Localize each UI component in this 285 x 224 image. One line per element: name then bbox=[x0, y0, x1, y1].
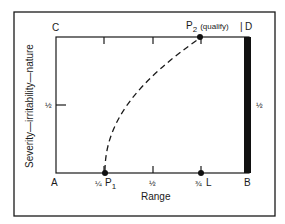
point-p1 bbox=[102, 170, 108, 176]
p2-label: P2(qualify) bbox=[186, 20, 229, 34]
movement-diagram: C A B | D P2(qualify) ¼ P1 ½ ¾ L ½ ½ Ran… bbox=[0, 0, 285, 224]
x-tick-quarter: ¼ bbox=[95, 179, 102, 188]
point-l bbox=[198, 170, 204, 176]
corner-b: B bbox=[244, 177, 251, 188]
x-tick-half: ½ bbox=[149, 179, 156, 188]
y-tick-half-right: ½ bbox=[256, 101, 263, 110]
x-axis-label: Range bbox=[141, 191, 171, 202]
corner-a: A bbox=[51, 177, 58, 188]
x-tick-three-quarter: ¾ bbox=[195, 179, 202, 188]
point-p2 bbox=[197, 34, 203, 40]
l-label: L bbox=[206, 177, 212, 188]
corner-c: C bbox=[52, 22, 59, 33]
divider-d: | bbox=[240, 21, 243, 32]
y-tick-half-left: ½ bbox=[45, 101, 52, 110]
y-axis-label: Severity—irritability—nature bbox=[24, 44, 35, 168]
limit-bar bbox=[244, 37, 251, 173]
plot-box bbox=[56, 37, 249, 173]
corner-d: D bbox=[245, 21, 252, 32]
pain-curve bbox=[105, 38, 200, 171]
p1-label: P1 bbox=[105, 177, 117, 191]
